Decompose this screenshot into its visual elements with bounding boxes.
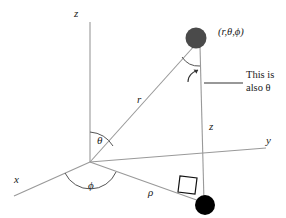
point-coords-label: (r,θ,ϕ): [218, 26, 244, 38]
height-z-line: [200, 46, 204, 202]
axis-z-label: z: [73, 7, 79, 19]
callout-line-2: also θ: [246, 82, 271, 93]
spherical-coordinates-figure: z y x r z ρ θ ϕ (r,θ,ϕ) This is also θ: [0, 0, 286, 218]
x-axis-line: [14, 162, 90, 196]
axis-y-label: y: [265, 134, 271, 146]
diagram-svg: z y x r z ρ θ ϕ (r,θ,ϕ) This is also θ: [0, 0, 286, 218]
callout-line-1: This is: [246, 69, 274, 80]
height-z-label: z: [208, 120, 214, 132]
right-angle-marker: [178, 176, 197, 194]
y-axis-line: [90, 148, 266, 162]
axis-x-label: x: [13, 173, 19, 185]
radius-r-label: r: [137, 93, 142, 105]
point-top-sphere: [186, 28, 207, 49]
phi-label: ϕ: [88, 179, 94, 191]
theta-label: θ: [97, 134, 103, 146]
rho-label: ρ: [147, 186, 153, 198]
point-bottom-sphere: [195, 195, 215, 215]
upper-theta-arc: [182, 57, 200, 66]
radius-r-line: [90, 44, 196, 162]
